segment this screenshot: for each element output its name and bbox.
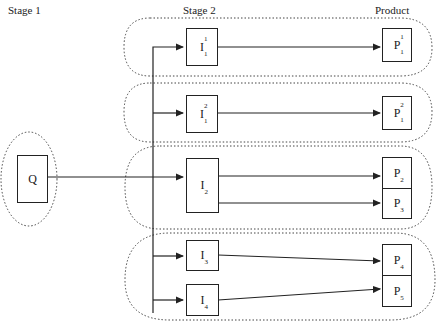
product-node-p3: P3 (382, 188, 412, 219)
node-symbol: P (394, 284, 401, 298)
node-subscript: 5 (400, 295, 404, 302)
node-subscript: 1 (204, 118, 208, 125)
node-subscript: 2 (400, 177, 404, 184)
node-symbol: P (394, 106, 401, 120)
source-label: Q (28, 172, 37, 187)
node-symbol: P (394, 38, 401, 52)
product-node-p4: P4 (382, 244, 412, 276)
product-node-p5: P5 (382, 275, 412, 307)
edge-q-i1-1 (153, 47, 183, 313)
node-symbol: P (394, 253, 401, 267)
node-subscript: 4 (205, 304, 209, 311)
intermediate-node-i4: I4 (186, 284, 219, 316)
product-node-p2: P2 (382, 157, 412, 189)
node-subscript: 3 (205, 259, 209, 266)
intermediate-node-i2: I2 (186, 158, 219, 213)
edge-i3-p4 (218, 255, 380, 261)
node-subscript: 1 (204, 51, 208, 58)
node-symbol: P (394, 196, 401, 210)
product-node-p1-1: P11 (382, 28, 412, 62)
node-superscript: 1 (204, 36, 208, 43)
node-symbol: P (394, 166, 401, 180)
product-node-p1-2: P21 (382, 96, 412, 130)
node-subscript: 3 (400, 207, 404, 214)
intermediate-node-i1-1: I11 (186, 28, 218, 66)
node-subscript: 2 (205, 189, 209, 196)
intermediate-node-i3: I3 (186, 240, 219, 271)
node-superscript: 2 (400, 102, 404, 109)
node-subscript: 1 (400, 49, 404, 56)
intermediate-node-i1-2: I21 (186, 95, 218, 133)
node-superscript: 2 (204, 103, 208, 110)
source-node-q: Q (17, 155, 48, 203)
edge-i4-p5 (218, 289, 380, 300)
node-subscript: 4 (400, 264, 404, 271)
node-subscript: 1 (400, 117, 404, 124)
node-superscript: 1 (400, 34, 404, 41)
